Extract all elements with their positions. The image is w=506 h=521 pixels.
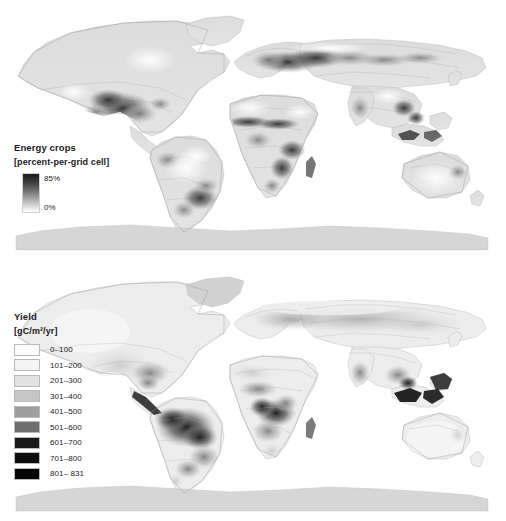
legend-swatch-row: 301–400: [14, 389, 84, 404]
legend-swatch-list: 0–100101–200201–300301–400401–500501–600…: [14, 342, 84, 481]
map-energy-crops: [0, 0, 506, 260]
legend-yield: Yield [gC/m²/yr] 0–100101–200201–300301–…: [14, 311, 84, 482]
panel-yield: Yield [gC/m²/yr] 0–100101–200201–300301–…: [0, 261, 506, 521]
legend-tick-high: 85%: [44, 174, 60, 183]
legend-gradient-bar: [22, 173, 40, 213]
legend-title-yield: Yield: [14, 311, 84, 323]
legend-swatch-label: 301–400: [50, 392, 82, 401]
legend-swatch-label: 0–100: [50, 345, 73, 354]
legend-units-yield: [gC/m²/yr]: [14, 325, 84, 337]
legend-swatch-box: [14, 344, 40, 356]
legend-swatch-box: [14, 390, 40, 402]
legend-swatch-label: 701–800: [50, 454, 82, 463]
legend-swatch-row: 501–600: [14, 420, 84, 435]
legend-swatch-row: 801– 831: [14, 466, 84, 481]
legend-swatch-label: 101–200: [50, 361, 82, 370]
world-map-energy-svg: [0, 0, 506, 260]
legend-swatch-label: 401–500: [50, 407, 82, 416]
legend-swatch-row: 0–100: [14, 342, 84, 357]
legend-title-energy: Energy crops: [14, 142, 124, 154]
figure-root: Energy crops [percent-per-grid cell] 85%…: [0, 0, 506, 521]
legend-swatch-box: [14, 375, 40, 387]
legend-swatch-label: 501–600: [50, 423, 82, 432]
legend-swatch-row: 201–300: [14, 373, 84, 388]
legend-swatch-box: [14, 359, 40, 371]
legend-swatch-box: [14, 406, 40, 418]
legend-swatch-box: [14, 452, 40, 464]
legend-energy-crops: Energy crops [percent-per-grid cell] 85%…: [14, 142, 124, 213]
legend-swatch-box: [14, 421, 40, 433]
legend-swatch-label: 801– 831: [50, 469, 84, 478]
legend-swatch-row: 601–700: [14, 435, 84, 450]
legend-swatch-row: 701–800: [14, 451, 84, 466]
legend-swatch-label: 201–300: [50, 376, 82, 385]
legend-swatch-box: [14, 437, 40, 449]
legend-swatch-label: 601–700: [50, 438, 82, 447]
legend-swatch-row: 401–500: [14, 404, 84, 419]
panel-energy-crops: Energy crops [percent-per-grid cell] 85%…: [0, 0, 506, 260]
legend-units-energy: [percent-per-grid cell]: [14, 156, 124, 168]
legend-swatch-box: [14, 468, 40, 480]
legend-swatch-row: 101–200: [14, 358, 84, 373]
legend-ramp-wrapper: 85% 0%: [14, 173, 124, 213]
legend-tick-low: 0%: [44, 203, 56, 212]
